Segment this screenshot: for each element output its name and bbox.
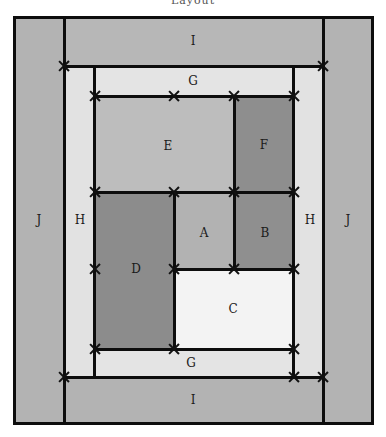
cross-marker (168, 186, 180, 198)
label-g-bottom: G (186, 356, 196, 370)
label-d: D (131, 262, 141, 276)
cross-marker (288, 343, 300, 355)
label-e: E (164, 139, 173, 153)
label-b: B (261, 226, 270, 240)
label-j-left: J (37, 213, 42, 227)
j-right-divider (322, 16, 325, 425)
label-h-right: H (305, 213, 315, 227)
inner-left-line (93, 67, 96, 378)
cross-marker (89, 263, 101, 275)
outer-border-right (371, 16, 374, 425)
outer-border-bottom (13, 422, 374, 425)
label-h-left: H (75, 213, 85, 227)
e-bottom-line (94, 191, 294, 194)
cross-marker (228, 186, 240, 198)
i-top-divider (64, 65, 324, 68)
cross-marker (228, 263, 240, 275)
outer-border-left (13, 16, 16, 425)
label-a: A (200, 226, 209, 240)
g-bottom-line (94, 348, 294, 351)
label-i-top: I (191, 34, 196, 48)
cross-marker (168, 263, 180, 275)
cross-marker (288, 186, 300, 198)
cross-marker (288, 263, 300, 275)
cross-marker (58, 371, 70, 383)
cross-marker (89, 186, 101, 198)
label-c: C (228, 302, 237, 316)
i-bottom-divider (64, 376, 324, 379)
cross-marker (317, 371, 329, 383)
cross-marker (58, 60, 70, 72)
cross-marker (288, 90, 300, 102)
j-left-divider (63, 16, 66, 425)
label-f: F (260, 138, 268, 152)
cross-marker (168, 343, 180, 355)
e-right-line (233, 96, 236, 270)
cross-marker (317, 60, 329, 72)
label-j-right: J (346, 213, 351, 227)
outer-border-top (13, 16, 374, 19)
diagram-title: Layout (0, 0, 386, 7)
g-top-line (94, 95, 294, 98)
label-i-bottom: I (191, 393, 196, 407)
cross-marker (168, 90, 180, 102)
cross-marker (89, 343, 101, 355)
label-g-top: G (188, 74, 198, 88)
cross-marker (89, 90, 101, 102)
cross-marker (288, 371, 300, 383)
cross-marker (228, 90, 240, 102)
inner-right-line (292, 67, 295, 378)
